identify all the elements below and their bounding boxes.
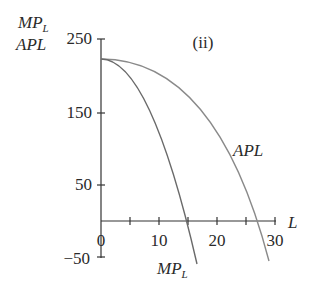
panel-label: (ii) <box>193 33 214 52</box>
x-axis <box>101 217 276 225</box>
mpl-curve <box>101 59 197 264</box>
apl-curve <box>101 59 269 261</box>
y-axis-label-mpl: MPL <box>17 13 49 34</box>
ytick-250: 250 <box>67 29 93 48</box>
x-axis-label: L <box>287 213 297 232</box>
ytick-neg50: −50 <box>63 249 90 268</box>
xtick-0: 0 <box>97 231 106 250</box>
y-axis-label-apl: APL <box>15 35 46 54</box>
chart: 250 150 50 −50 0 10 20 30 MPL APL L (ii)… <box>0 0 315 291</box>
ytick-150: 150 <box>67 103 93 122</box>
xtick-30: 30 <box>267 231 284 250</box>
apl-curve-label: APL <box>232 141 263 160</box>
xtick-10: 10 <box>151 231 168 250</box>
mpl-curve-label: MPL <box>156 259 188 280</box>
xtick-20: 20 <box>209 231 226 250</box>
ytick-50: 50 <box>75 175 92 194</box>
y-axis <box>97 39 105 258</box>
